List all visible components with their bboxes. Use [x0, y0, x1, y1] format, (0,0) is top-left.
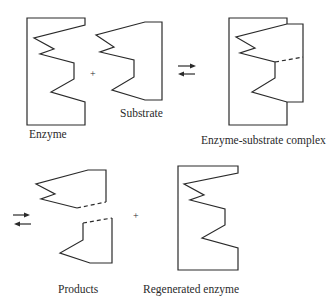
- enzyme-label: Enzyme: [29, 128, 67, 141]
- equilibrium-arrows-icon: [178, 64, 196, 77]
- products-label: Products: [58, 283, 99, 295]
- equilibrium-arrows-bottom-icon: [13, 213, 31, 227]
- substrate-label: Substrate: [120, 107, 163, 119]
- enzyme-shape: [27, 18, 85, 125]
- regenerated-enzyme-shape: [178, 166, 238, 270]
- product-fragment-top: [36, 170, 106, 208]
- enzyme-reaction-diagram: Enzyme + Substrate Enzyme-substrate comp…: [0, 0, 329, 303]
- complex-shape: [229, 18, 303, 125]
- plus-sign-bottom: +: [133, 210, 139, 221]
- regenerated-enzyme-label: Regenerated enzyme: [143, 283, 239, 296]
- product-fragment-bottom: [60, 218, 112, 263]
- complex-label: Enzyme-substrate complex: [201, 134, 326, 147]
- plus-sign-top: +: [90, 68, 96, 79]
- substrate-shape: [96, 22, 162, 100]
